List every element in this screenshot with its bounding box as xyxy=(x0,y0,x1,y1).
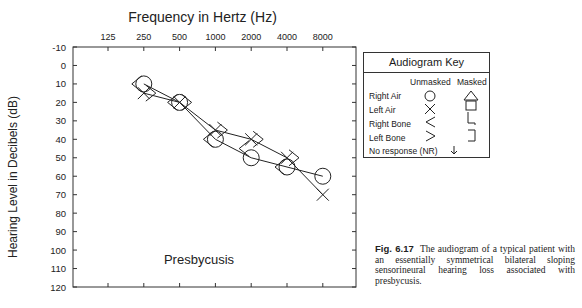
series-line xyxy=(144,93,323,195)
key-symbols xyxy=(364,53,491,159)
y-tick-label: 90 xyxy=(55,226,66,237)
y-tick-label: 120 xyxy=(50,282,66,293)
bracket-right-icon xyxy=(468,112,475,125)
y-tick-label: 70 xyxy=(55,189,66,200)
arrow-down-icon xyxy=(451,146,457,154)
y-tick-label: 40 xyxy=(55,134,66,145)
x-tick-label: 4000 xyxy=(277,32,297,42)
y-tick-label: -10 xyxy=(52,42,66,53)
x-icon xyxy=(209,124,221,136)
plot-frame xyxy=(73,47,356,287)
bracket-left-icon xyxy=(468,130,475,141)
presbycusis-annotation: Presbycusis xyxy=(164,252,235,267)
y-axis-title: Hearing Level in Decibels (dB) xyxy=(6,96,20,258)
figure-number: Fig. 6.17 xyxy=(375,243,414,254)
y-tick-label: 0 xyxy=(61,60,66,71)
y-tick-label: 20 xyxy=(55,97,66,108)
x-icon xyxy=(174,96,186,108)
x-axis-title: Frequency in Hertz (Hz) xyxy=(128,9,277,25)
audiogram-chart: Frequency in Hertz (Hz)12525050010002000… xyxy=(0,0,360,308)
x-icon xyxy=(281,152,293,164)
figure-caption: Fig. 6.17 The audiogram of a typical pat… xyxy=(375,244,575,286)
greater-than-icon xyxy=(426,131,435,141)
x-icon xyxy=(138,87,150,99)
x-tick-label: 8000 xyxy=(313,32,333,42)
y-tick-label: 50 xyxy=(55,152,66,163)
y-tick-label: 30 xyxy=(55,115,66,126)
x-icon xyxy=(317,189,329,201)
audiogram-key: Audiogram Key Unmasked Masked Right Air … xyxy=(363,52,490,158)
x-tick-label: 250 xyxy=(136,32,151,42)
x-tick-label: 2000 xyxy=(241,32,261,42)
x-tick-label: 500 xyxy=(172,32,187,42)
square-icon xyxy=(466,101,476,110)
y-tick-label: 80 xyxy=(55,208,66,219)
series-line xyxy=(144,84,323,176)
x-tick-label: 1000 xyxy=(205,32,225,42)
x-tick-label: 125 xyxy=(100,32,115,42)
x-icon xyxy=(425,104,435,114)
triangle-icon xyxy=(464,91,478,100)
circle-icon xyxy=(425,91,435,101)
less-than-icon xyxy=(426,117,435,127)
y-tick-label: 100 xyxy=(50,245,66,256)
y-tick-label: 110 xyxy=(51,263,66,274)
x-icon xyxy=(245,133,257,145)
y-tick-label: 60 xyxy=(55,171,66,182)
y-tick-label: 10 xyxy=(55,78,66,89)
